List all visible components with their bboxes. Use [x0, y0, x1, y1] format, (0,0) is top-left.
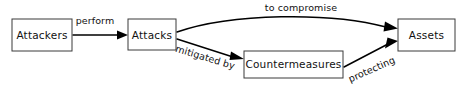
edge-perform-label: perform: [76, 15, 115, 26]
node-attackers[interactable]: Attackers: [12, 19, 72, 51]
threat-model-diagram: perform to compromise mitigated by prote…: [0, 0, 459, 84]
node-attackers-label: Attackers: [16, 29, 67, 41]
edge-protecting: protecting: [344, 38, 398, 85]
edge-to-compromise: to compromise: [177, 2, 398, 33]
edge-to-compromise-line: [177, 17, 386, 32]
node-attacks-label: Attacks: [132, 29, 172, 41]
diagram-canvas: perform to compromise mitigated by prote…: [0, 0, 459, 84]
node-countermeasures-label: Countermeasures: [245, 58, 341, 70]
node-assets[interactable]: Assets: [398, 19, 455, 51]
edge-protecting-arrowhead: [385, 38, 398, 49]
node-attacks[interactable]: Attacks: [128, 19, 176, 50]
edge-perform: perform: [73, 15, 128, 40]
edge-protecting-label: protecting: [347, 54, 397, 84]
edge-to-compromise-label: to compromise: [265, 2, 337, 13]
edge-mitigated-by-label: mitigated by: [174, 43, 236, 72]
node-countermeasures[interactable]: Countermeasures: [244, 51, 343, 78]
edge-perform-arrowhead: [117, 31, 128, 40]
edge-mitigated-by: mitigated by: [174, 39, 244, 71]
edge-to-compromise-arrowhead: [384, 22, 399, 32]
node-assets-label: Assets: [409, 29, 444, 41]
